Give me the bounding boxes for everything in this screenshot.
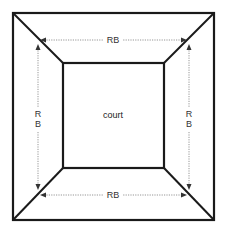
dimension-label-left-b: B — [34, 119, 43, 129]
dimension-label-left-r: R — [34, 109, 43, 119]
arrowhead-left-bottom — [36, 184, 41, 190]
dimension-label-bottom: RB — [104, 190, 123, 200]
dimension-label-right-r: R — [185, 109, 194, 119]
dimension-label-right: R B — [185, 107, 194, 131]
dimension-label-left: R B — [34, 107, 43, 131]
dimension-label-top: RB — [104, 35, 123, 45]
arrowhead-bottom-left — [40, 193, 46, 198]
arrowhead-right-bottom — [187, 184, 192, 190]
court-label: court — [103, 110, 123, 120]
arrowhead-bottom-right — [181, 193, 187, 198]
dimension-label-right-b: B — [185, 119, 194, 129]
arrowhead-left-top — [36, 44, 41, 50]
arrowhead-right-top — [187, 44, 192, 50]
